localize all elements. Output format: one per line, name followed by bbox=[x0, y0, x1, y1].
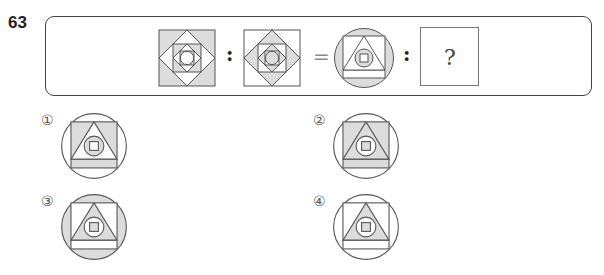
ratio-symbol-2: : bbox=[403, 44, 410, 64]
option-1-figure[interactable] bbox=[60, 112, 128, 180]
option-1-label: ① bbox=[41, 112, 54, 128]
unknown-figure-box: ? bbox=[420, 27, 480, 87]
option-2-label: ② bbox=[313, 112, 326, 128]
small-square-shape bbox=[90, 142, 99, 151]
question-mark: ? bbox=[444, 45, 456, 70]
option-3-figure[interactable] bbox=[60, 193, 128, 261]
small-square-shape bbox=[360, 54, 368, 62]
figure-b bbox=[243, 29, 301, 87]
small-square-shape bbox=[90, 223, 99, 232]
option-4-label: ④ bbox=[313, 193, 326, 209]
option-3-label: ③ bbox=[41, 193, 54, 209]
small-square-shape bbox=[362, 142, 371, 151]
equals-symbol: = bbox=[313, 46, 330, 66]
figure-c bbox=[333, 27, 395, 89]
ratio-symbol-1: : bbox=[226, 44, 233, 64]
small-square-shape bbox=[362, 223, 371, 232]
question-number: 63 bbox=[8, 13, 27, 33]
circle-shape bbox=[265, 51, 278, 64]
circle-shape bbox=[180, 51, 193, 64]
option-2-figure[interactable] bbox=[332, 112, 400, 180]
option-4-figure[interactable] bbox=[332, 193, 400, 261]
figure-a bbox=[158, 29, 216, 87]
